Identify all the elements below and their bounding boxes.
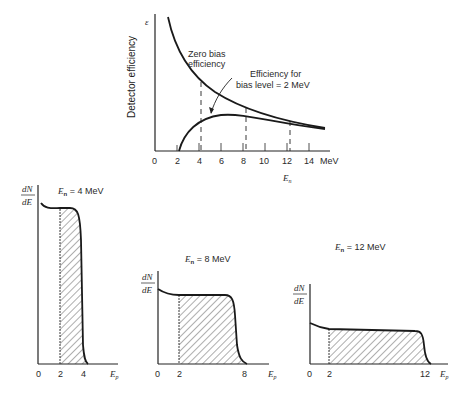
- ylabel-dN: dN: [294, 283, 306, 293]
- spectrum-panel-12mev: dN dE En = 12 MeV 0 2 12 Ep: [293, 242, 449, 380]
- ylabel-dE: dE: [294, 296, 305, 306]
- svg-text:MeV: MeV: [320, 156, 339, 166]
- svg-text:2: 2: [175, 156, 180, 166]
- ylabel-dE: dE: [22, 197, 33, 207]
- svg-text:0: 0: [152, 156, 157, 166]
- arrow-head-icon: [209, 107, 214, 114]
- zero-bias-curve: [168, 17, 325, 128]
- tick-label-0: 0: [307, 369, 312, 379]
- panel-title: En = 12 MeV: [334, 242, 385, 253]
- spectrum-panel-4mev: dN dE En = 4 MeV 0 2 4 Ep: [21, 184, 119, 380]
- y-axis-symbol: ε: [145, 17, 149, 27]
- x-axis-label: Ep: [267, 369, 277, 380]
- tick-label-2: 2: [177, 369, 182, 379]
- ylabel-dE: dE: [142, 285, 153, 295]
- panel-title: En = 8 MeV: [184, 254, 230, 265]
- annotation-bias-2: bias level = 2 MeV: [236, 80, 310, 90]
- tick-label-12: 12: [420, 369, 430, 379]
- x-tick-labels: 0 2 4 6 8 10 12 14 MeV: [152, 156, 339, 166]
- tick-label-8: 8: [242, 369, 247, 379]
- y-axis-label: Detector efficiency: [126, 36, 137, 118]
- annotation-zero-bias: Zero bias: [188, 49, 226, 59]
- tick-label-0: 0: [155, 369, 160, 379]
- svg-text:14: 14: [304, 156, 314, 166]
- svg-text:12: 12: [282, 156, 292, 166]
- annotation-zero-bias-2: efficiency: [188, 59, 226, 69]
- efficiency-chart: ε Detector efficiency 0 2 4 6 8 10 12: [126, 14, 339, 184]
- svg-text:6: 6: [219, 156, 224, 166]
- x-ticks: [177, 143, 309, 151]
- spectrum-panel-8mev: dN dE En = 8 MeV 0 2 8 Ep: [141, 254, 277, 380]
- panel-title: En = 4 MeV: [57, 186, 103, 197]
- x-axis-label: Ep: [439, 369, 449, 380]
- svg-text:4: 4: [197, 156, 202, 166]
- x-axis-label: En: [282, 173, 292, 184]
- tick-label-2: 2: [58, 369, 63, 379]
- ylabel-dN: dN: [22, 184, 34, 194]
- svg-text:10: 10: [259, 156, 269, 166]
- ylabel-dN: dN: [142, 272, 154, 282]
- tick-label-0: 0: [36, 369, 41, 379]
- tick-label-4: 4: [81, 369, 86, 379]
- annotation-bias: Efficiency for: [250, 69, 301, 79]
- x-axis-label: Ep: [109, 369, 119, 380]
- shaded-region: [329, 329, 431, 364]
- tick-label-2: 2: [327, 369, 332, 379]
- svg-text:8: 8: [241, 156, 246, 166]
- figure: ε Detector efficiency 0 2 4 6 8 10 12: [0, 0, 468, 396]
